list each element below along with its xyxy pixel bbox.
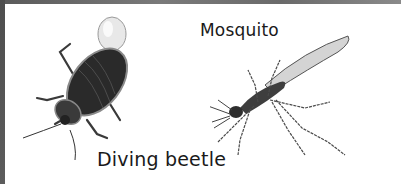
diving-beetle-label: Diving beetle — [97, 148, 226, 170]
mosquito-label: Mosquito — [200, 20, 279, 40]
frame-left-border — [0, 0, 5, 184]
diving-beetle-illustration — [15, 12, 155, 162]
frame-top-border — [0, 0, 401, 4]
mosquito-illustration — [210, 30, 390, 170]
